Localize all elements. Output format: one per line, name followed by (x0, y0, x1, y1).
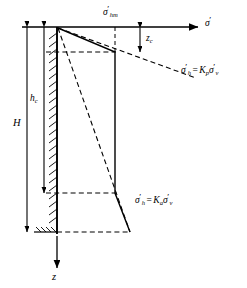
wall-base-support-hatching (36, 227, 56, 232)
label-zc: zc (146, 34, 153, 44)
label-hc: hc (30, 94, 38, 104)
retaining-wall (34, 27, 57, 234)
label-z-axis: z (52, 272, 56, 283)
earth-pressure-figure: σ′hm σ′ zc H hc σ′h=Kpσ′v σ′h=Kaσ′v z (0, 0, 247, 288)
diagram-canvas (0, 0, 247, 288)
label-active-pressure-equation: σ′h=Kaσ′v (135, 196, 173, 206)
passive-pressure-dashed-line (58, 28, 196, 78)
label-sigma-axis: σ′ (205, 19, 212, 29)
active-pressure-dashed-line (58, 28, 130, 232)
wall-hatching (49, 33, 57, 223)
label-sigma-hm: σ′hm (103, 8, 118, 18)
label-passive-pressure-equation: σ′h=Kpσ′v (181, 66, 219, 76)
label-H: H (13, 118, 21, 129)
